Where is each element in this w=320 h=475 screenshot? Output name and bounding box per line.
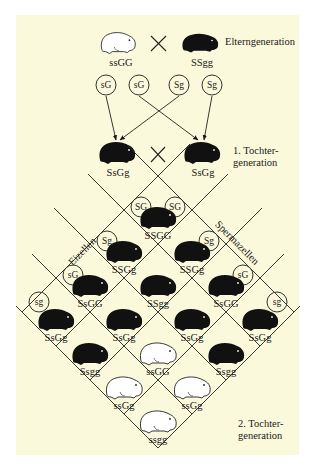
punnett-cell-genotype: ssGg: [113, 400, 134, 411]
black-guinea-pig-icon: [174, 309, 210, 331]
punnett-cell-genotype: SsGg: [113, 332, 136, 343]
punnett-cell-genotype: SsGg: [45, 332, 68, 343]
punnett-cell-genotype: SSGG: [145, 230, 172, 241]
punnett-cell-genotype: SsGG: [213, 298, 238, 309]
white-guinea-pig-icon: [140, 411, 176, 433]
punnett-cell-genotype: ssGG: [146, 366, 169, 377]
white-guinea-pig-icon: [106, 377, 142, 399]
punnett-cell-genotype: ssgg: [149, 434, 168, 445]
punnett-cell-genotype: SsGG: [77, 298, 102, 309]
black-guinea-pig-icon: [72, 275, 108, 297]
black-guinea-pig-icon: [38, 309, 74, 331]
black-guinea-pig-icon: [174, 241, 210, 263]
black-guinea-pig-icon: [208, 275, 244, 297]
white-guinea-pig-icon: [140, 343, 176, 365]
black-guinea-pig-icon: [140, 275, 176, 297]
f2-generation-label-line1: 2. Tochter-: [238, 418, 284, 430]
punnett-cell-genotype: SSGg: [112, 264, 137, 275]
black-guinea-pig-icon: [140, 207, 176, 229]
black-guinea-pig-icon: [208, 343, 244, 365]
white-guinea-pig-icon: [174, 377, 210, 399]
black-guinea-pig-icon: [106, 309, 142, 331]
black-guinea-pig-icon: [72, 343, 108, 365]
black-guinea-pig-icon: [242, 309, 278, 331]
punnett-cell-genotype: ssGg: [181, 400, 202, 411]
punnett-cell-genotype: SsGg: [181, 332, 204, 343]
punnett-cell-genotype: SSGg: [180, 264, 205, 275]
punnett-cell-genotype: Ssgg: [80, 366, 100, 377]
punnett-cell-genotype: Ssgg: [216, 366, 236, 377]
f2-generation-label-line2: generation: [238, 430, 282, 442]
black-guinea-pig-icon: [106, 241, 142, 263]
punnett-cell-genotype: SsGg: [249, 332, 272, 343]
punnett-cell-genotype: SSgg: [147, 298, 169, 309]
